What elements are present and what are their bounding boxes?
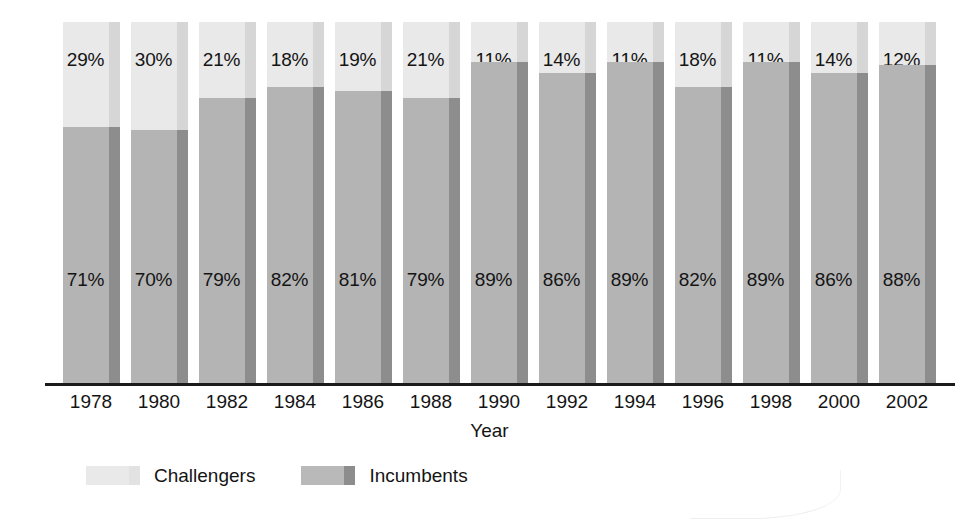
segment-edge [177,130,188,383]
segment-edge [653,62,664,383]
bar-value-label-challengers: 30% [131,50,177,69]
segment-edge [313,87,324,383]
bar-value-label-incumbents: 79% [199,270,245,289]
segment-edge [177,22,188,130]
bar-group[interactable]: 19%81% [335,22,392,383]
x-tick-label: 1984 [261,390,329,414]
segment-edge [517,62,528,383]
bar-value-label-incumbents: 88% [879,270,925,289]
bar-segment-challengers[interactable]: 21% [199,22,256,98]
bar-segment-incumbents[interactable]: 89% [471,62,528,383]
segment-face [539,73,585,383]
bar-value-label-incumbents: 86% [811,270,857,289]
x-tick-label: 1986 [329,390,397,414]
x-tick-label: 2000 [805,390,873,414]
bar-group[interactable]: 11%89% [471,22,528,383]
bar-value-label-incumbents: 86% [539,270,585,289]
segment-edge [449,98,460,383]
bar-segment-challengers[interactable]: 29% [63,22,120,127]
segment-edge [857,73,868,383]
bar-segment-incumbents[interactable]: 70% [131,130,188,383]
segment-edge [925,22,936,65]
bar-group[interactable]: 18%82% [675,22,732,383]
bar-group[interactable]: 29%71% [63,22,120,383]
bar-segment-challengers[interactable]: 21% [403,22,460,98]
segment-face [63,127,109,383]
bar-group[interactable]: 11%89% [607,22,664,383]
segment-edge [653,22,664,62]
segment-edge [381,91,392,383]
bar-value-label-challengers: 19% [335,50,381,69]
bar-segment-incumbents[interactable]: 82% [267,87,324,383]
bar-segment-challengers[interactable]: 30% [131,22,188,130]
bar-group[interactable]: 21%79% [199,22,256,383]
bar-segment-challengers[interactable]: 19% [335,22,392,91]
bar-group[interactable]: 11%89% [743,22,800,383]
bar-segment-incumbents[interactable]: 88% [879,65,936,383]
bar-segment-challengers[interactable]: 18% [675,22,732,87]
swatch-edge [344,466,355,485]
bar-group[interactable]: 30%70% [131,22,188,383]
segment-edge [789,62,800,383]
bar-segment-challengers[interactable]: 11% [607,22,664,62]
bar-value-label-incumbents: 89% [471,270,517,289]
bar-value-label-challengers: 14% [539,50,585,69]
bar-segment-incumbents[interactable]: 86% [811,73,868,383]
segment-face [131,22,177,130]
bar-segment-challengers[interactable]: 14% [811,22,868,73]
segment-edge [585,73,596,383]
bar-segment-incumbents[interactable]: 81% [335,91,392,383]
segment-edge [245,22,256,98]
segment-edge [857,22,868,73]
segment-face [879,65,925,383]
bar-group[interactable]: 21%79% [403,22,460,383]
x-tick-label: 1988 [397,390,465,414]
chart-legend: Challengers Incumbents [86,463,514,487]
x-tick-label: 1990 [465,390,533,414]
x-axis-line [45,383,955,386]
scan-artifact [690,470,841,519]
swatch-face [301,466,344,485]
stacked-bar-chart: 29%71%30%70%21%79%18%82%19%81%21%79%11%8… [0,0,979,520]
legend-item-challengers[interactable]: Challengers [86,466,255,485]
x-tick-label: 1996 [669,390,737,414]
bar-group[interactable]: 14%86% [811,22,868,383]
bar-value-label-incumbents: 89% [743,270,789,289]
bar-segment-challengers[interactable]: 12% [879,22,936,65]
segment-face [131,130,177,383]
bar-segment-challengers[interactable]: 11% [471,22,528,62]
bar-value-label-challengers: 29% [63,50,109,69]
bar-value-label-challengers: 18% [675,50,721,69]
segment-face [675,87,721,383]
bar-value-label-incumbents: 89% [607,270,653,289]
segment-face [471,62,517,383]
bar-group[interactable]: 14%86% [539,22,596,383]
bar-segment-incumbents[interactable]: 86% [539,73,596,383]
segment-face [811,73,857,383]
bar-value-label-incumbents: 70% [131,270,177,289]
legend-item-incumbents[interactable]: Incumbents [301,466,467,485]
segment-edge [313,22,324,87]
segment-face [199,98,245,383]
bar-segment-challengers[interactable]: 14% [539,22,596,73]
bar-segment-incumbents[interactable]: 79% [199,98,256,383]
segment-edge [245,98,256,383]
bar-segment-incumbents[interactable]: 71% [63,127,120,383]
segment-edge [925,65,936,383]
bar-segment-incumbents[interactable]: 89% [743,62,800,383]
segment-edge [789,22,800,62]
x-axis-title: Year [0,419,979,443]
bar-value-label-challengers: 21% [199,50,245,69]
segment-face [335,91,381,383]
bar-segment-challengers[interactable]: 18% [267,22,324,87]
segment-edge [721,87,732,383]
bar-group[interactable]: 18%82% [267,22,324,383]
bar-segment-incumbents[interactable]: 79% [403,98,460,383]
segment-edge [449,22,460,98]
bar-segment-incumbents[interactable]: 82% [675,87,732,383]
bar-segment-challengers[interactable]: 11% [743,22,800,62]
x-tick-label: 1994 [601,390,669,414]
bar-segment-incumbents[interactable]: 89% [607,62,664,383]
bar-group[interactable]: 12%88% [879,22,936,383]
bar-value-label-challengers: 21% [403,50,449,69]
